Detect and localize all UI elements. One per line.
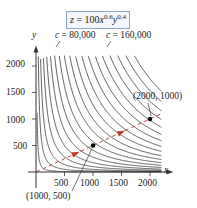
- leader-line-2: [148, 103, 151, 116]
- y-tick-500: 500: [13, 141, 27, 151]
- formula-coef: = 100: [74, 14, 100, 25]
- y-tick-2000: 2000: [6, 59, 25, 69]
- formula-x-exp: 0.6: [104, 13, 113, 21]
- label-c-160000: c = 160,000: [106, 30, 151, 40]
- y-tick-1500: 1500: [6, 87, 25, 97]
- level-curve: [134, 56, 161, 91]
- x-tick-1000: 1000: [80, 178, 99, 188]
- formula-box: z = 100x0.6y0.4: [66, 11, 130, 29]
- formula-y-exp: 0.4: [117, 13, 126, 21]
- level-curve: [64, 56, 161, 160]
- level-curve: [55, 56, 162, 166]
- c160-leader: [107, 41, 111, 47]
- point-2000-1000: [148, 117, 152, 121]
- y-axis-label: y: [32, 30, 36, 40]
- label-c-80000: c = 80,000: [55, 30, 95, 40]
- chart-canvas: [0, 0, 197, 208]
- level-curve: [110, 56, 162, 120]
- point-1000-500: [91, 143, 95, 147]
- expansion-path-arrow: [117, 131, 125, 137]
- point-label-1000-500: (1000, 500): [26, 191, 70, 201]
- x-axis-label: x: [164, 165, 168, 175]
- x-tick-1500: 1500: [109, 178, 128, 188]
- x-tick-2000: 2000: [138, 178, 157, 188]
- level-curve: [47, 57, 162, 169]
- x-tick-500: 500: [54, 178, 68, 188]
- y-axis-arrow: [34, 45, 39, 52]
- c80-leader: [56, 41, 60, 47]
- level-curve: [70, 56, 162, 156]
- point-label-2000-1000: (2000, 1000): [133, 91, 182, 101]
- y-tick-1000: 1000: [6, 115, 25, 125]
- expansion-path-arrow: [71, 152, 79, 158]
- level-curve: [50, 56, 161, 167]
